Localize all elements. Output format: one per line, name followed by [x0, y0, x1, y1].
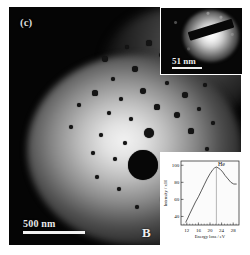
y-tick-label: 40: [174, 214, 180, 219]
helium-bubble: [95, 175, 99, 179]
helium-bubble: [211, 121, 215, 125]
inset-scalebar-line: [172, 67, 202, 69]
helium-bubble: [91, 151, 95, 155]
x-tick-label: 28: [231, 228, 237, 233]
scalebar: 500 nm: [23, 218, 85, 234]
x-tick-label: 12: [184, 228, 190, 233]
helium-bubble: [125, 45, 129, 49]
helium-bubble: [165, 81, 170, 86]
helium-bubble: [102, 56, 108, 62]
helium-bubble: [144, 128, 154, 138]
helium-bubble: [132, 66, 138, 72]
inset-scalebar: 51 nm: [172, 56, 202, 69]
helium-bubble: [146, 40, 151, 45]
y-tick-label: 100: [172, 163, 180, 168]
panel-label: (c): [20, 16, 32, 28]
helium-bubble: [117, 187, 122, 192]
eels-spectrum-inset: 1216202428406080100 He Energy loss / eVI…: [160, 152, 241, 245]
x-tick-label: 24: [219, 228, 225, 233]
scalebar-line: [23, 231, 85, 234]
y-tick-label: 60: [174, 197, 180, 202]
helium-bubble: [129, 117, 134, 122]
helium-bubble: [123, 141, 128, 146]
inset-scalebar-label: 51 nm: [172, 56, 202, 66]
helium-bubble: [182, 92, 188, 98]
helium-bubble: [197, 107, 201, 111]
helium-bubble: [203, 83, 207, 87]
eels-spectrum-chart: 1216202428406080100 He Energy loss / eVI…: [161, 153, 242, 246]
annotation-label: He: [218, 161, 225, 167]
helium-bubble: [99, 133, 103, 137]
chart-axes-box: [181, 161, 239, 225]
helium-bubble: [111, 77, 115, 81]
helium-bubble: [128, 150, 158, 180]
helium-bubble: [69, 125, 73, 129]
helium-bubble: [135, 205, 139, 209]
selected-area-diffraction-inset: 51 nm: [160, 7, 243, 75]
tem-figure-panel-c: (c) 500 nm B 51 nm 1216202428406080100 H…: [0, 0, 250, 255]
x-axis-title: Energy loss / eV: [195, 234, 226, 239]
helium-bubble: [113, 157, 118, 162]
chart-plot-frame: [181, 161, 239, 225]
helium-bubble: [77, 103, 81, 107]
helium-bubble: [140, 88, 147, 95]
region-label-b: B: [142, 225, 151, 241]
x-tick-label: 16: [196, 228, 202, 233]
helium-bubble: [205, 147, 209, 151]
x-tick-label: 20: [208, 228, 214, 233]
helium-bubble: [92, 90, 97, 95]
y-tick-label: 80: [174, 180, 180, 185]
helium-bubble: [174, 112, 180, 118]
helium-bubble: [154, 104, 159, 109]
helium-bubble: [119, 97, 123, 101]
y-axis-title: Intensity / x10: [163, 179, 168, 206]
helium-bubble: [188, 128, 193, 133]
helium-bubble: [107, 111, 111, 115]
scalebar-label: 500 nm: [23, 218, 85, 229]
